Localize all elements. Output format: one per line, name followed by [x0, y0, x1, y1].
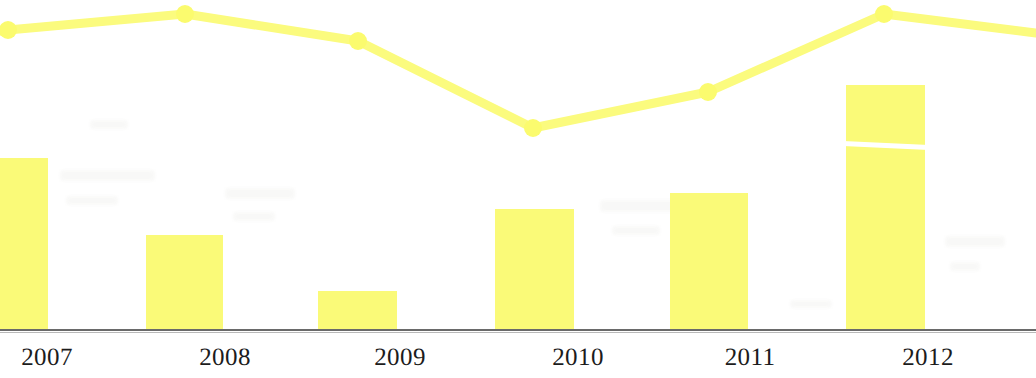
x-axis-line	[0, 329, 1036, 331]
trend-line	[0, 14, 1036, 128]
line-marker-2011[interactable]	[699, 83, 717, 101]
line-marker-2010[interactable]	[524, 119, 542, 137]
line-marker-2009[interactable]	[349, 32, 367, 50]
x-tick-label-2007: 2007	[21, 344, 73, 372]
chart-canvas: 2007 2008 2009 2010 2011 2012	[0, 0, 1036, 378]
line-marker-2008[interactable]	[176, 5, 194, 23]
x-tick-label-2011: 2011	[725, 344, 776, 372]
x-tick-label-2010: 2010	[552, 344, 604, 372]
x-tick-label-2012: 2012	[902, 344, 954, 372]
x-tick-label-2009: 2009	[374, 344, 426, 372]
x-axis-line-shadow	[0, 332, 1036, 333]
x-tick-label-2008: 2008	[199, 344, 251, 372]
line-marker-2007[interactable]	[0, 21, 17, 39]
line-marker-2012[interactable]	[875, 5, 893, 23]
line-series-layer	[0, 0, 1036, 378]
